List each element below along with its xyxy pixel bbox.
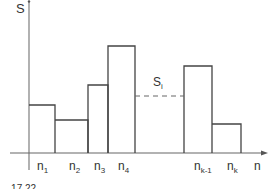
y-axis-label: S — [16, 1, 25, 16]
si-label: Si — [153, 75, 163, 91]
figure-caption-fragment: ... 17.22 ... — [0, 183, 47, 189]
tick-label-nk-1: nk-1 — [194, 159, 212, 175]
tick-label-n3: n3 — [94, 159, 106, 175]
x-axis-label: n — [254, 159, 261, 173]
x-axis-arrow-icon — [261, 151, 268, 156]
tick-label-n1: n1 — [37, 159, 49, 175]
tick-label-nk: nk — [227, 159, 239, 175]
tick-label-n2: n2 — [69, 159, 81, 175]
tick-label-n4: n4 — [118, 159, 130, 175]
bar-nk-1 — [184, 66, 212, 153]
histogram-diagram: S Si n1 n2 n3 n4 nk-1 nk n ... 17.22 ... — [0, 0, 271, 189]
bar-n3 — [88, 85, 108, 153]
bar-n4 — [108, 46, 135, 153]
bar-n1 — [29, 105, 55, 153]
bar-n2 — [55, 120, 88, 153]
y-axis-arrow-tip — [28, 0, 30, 2]
bar-nk — [212, 124, 241, 153]
